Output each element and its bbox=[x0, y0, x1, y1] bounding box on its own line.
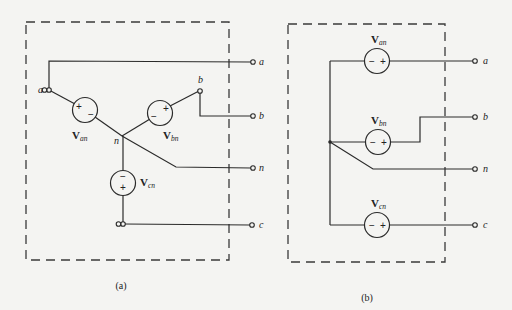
polarity-minus: − bbox=[88, 109, 94, 120]
polarity-plus: + bbox=[76, 101, 82, 112]
polarity-plus: + bbox=[381, 137, 387, 148]
node-b bbox=[198, 89, 203, 94]
node-a bbox=[47, 88, 52, 93]
terminal-label-c: c bbox=[483, 219, 488, 230]
wire-b bbox=[200, 93, 251, 116]
wire-vbn-b bbox=[170, 91, 199, 106]
polarity-plus: + bbox=[380, 220, 386, 231]
wire-b bbox=[391, 117, 473, 142]
polarity-minus: − bbox=[369, 220, 375, 231]
wire-n bbox=[122, 136, 251, 168]
wire-n-vbn bbox=[122, 119, 150, 136]
polarity-minus: − bbox=[151, 111, 157, 122]
terminal-label-b: b bbox=[259, 110, 264, 121]
source-vcn-a: − + Vcn bbox=[111, 171, 156, 196]
source-vbn-a: − + Vbn bbox=[148, 101, 179, 144]
terminal-c bbox=[473, 223, 478, 228]
polarity-plus: + bbox=[120, 182, 126, 193]
terminal-label-n: n bbox=[259, 162, 264, 173]
source-van-a: + − Van bbox=[72, 98, 98, 144]
panel-a-wires bbox=[49, 61, 251, 225]
terminal-label-n: n bbox=[483, 163, 488, 174]
source-label: Vcn bbox=[371, 197, 386, 211]
source-vcn-b: − + Vcn bbox=[365, 197, 390, 238]
node-label-n: n bbox=[114, 135, 119, 146]
three-phase-source-diagram: + − Van − + Vbn − + Vcn a b n a b n c (a… bbox=[0, 0, 512, 310]
node-c-ring bbox=[116, 222, 121, 227]
polarity-plus: + bbox=[163, 103, 169, 114]
terminal-b bbox=[251, 114, 256, 119]
source-label: Vcn bbox=[140, 176, 155, 190]
junction-dot bbox=[328, 140, 332, 144]
caption-a: (a) bbox=[115, 280, 126, 292]
terminal-n bbox=[473, 167, 478, 172]
source-label: Vbn bbox=[163, 129, 179, 143]
terminal-label-a: a bbox=[259, 56, 264, 67]
terminal-a bbox=[473, 59, 478, 64]
terminal-label-b: b bbox=[483, 111, 488, 122]
polarity-minus: − bbox=[120, 171, 126, 182]
terminal-n bbox=[251, 166, 256, 171]
panel-b: − + Van − + Vbn − + Vcn a b n c (b) bbox=[288, 24, 488, 304]
source-van-b: − + Van bbox=[365, 33, 390, 74]
terminal-label-c: c bbox=[259, 219, 264, 230]
wire-n bbox=[330, 142, 473, 169]
source-label: Van bbox=[72, 129, 88, 143]
caption-b: (b) bbox=[361, 292, 373, 304]
node-label-b: b bbox=[198, 74, 203, 85]
terminal-label-a: a bbox=[483, 55, 488, 66]
wire-van-n bbox=[95, 117, 122, 136]
panel-b-wires bbox=[330, 61, 473, 225]
wire-a-van bbox=[49, 90, 75, 104]
terminal-a bbox=[251, 60, 256, 65]
wire-a bbox=[49, 61, 251, 89]
source-vbn-b: − + Vbn bbox=[366, 114, 391, 155]
polarity-plus: + bbox=[380, 56, 386, 67]
polarity-minus: − bbox=[369, 56, 375, 67]
terminal-c bbox=[250, 223, 255, 228]
source-label: Van bbox=[371, 33, 387, 47]
panel-a: + − Van − + Vbn − + Vcn a b n a b n c (a… bbox=[26, 22, 264, 292]
source-label: Vbn bbox=[371, 114, 387, 128]
wire-c bbox=[124, 224, 250, 225]
terminal-b bbox=[473, 115, 478, 120]
polarity-minus: − bbox=[370, 137, 376, 148]
node-label-a: a bbox=[38, 84, 43, 95]
node-c bbox=[121, 222, 126, 227]
